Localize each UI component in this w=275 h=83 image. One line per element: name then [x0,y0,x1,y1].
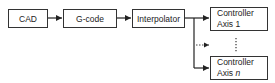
gcode-block: G-code [63,9,117,28]
cad-block: CAD [8,9,48,28]
controller-1-line1: Controller [217,8,254,19]
controller-axis-1-block: Controller Axis 1 [210,7,268,31]
controller-n-line1: Controller [217,57,254,68]
interpolator-label: Interpolator [137,14,180,24]
controller-n-line2: Axis n [217,68,254,79]
axis-prefix: Axis [217,19,235,29]
gcode-label: G-code [76,14,104,24]
interpolator-block: Interpolator [132,9,185,28]
axis-number: 1 [235,19,240,29]
axis-prefix: Axis [217,68,235,78]
cad-label: CAD [19,14,37,24]
controller-1-line2: Axis 1 [217,19,254,30]
controller-axis-n-block: Controller Axis n [210,56,268,80]
axis-variable-n: n [235,68,240,78]
